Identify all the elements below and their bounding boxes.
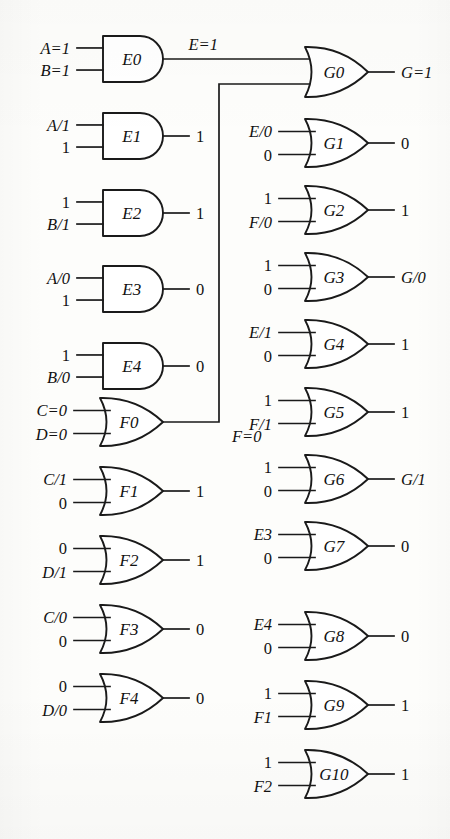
g8-output-label: 0 — [401, 627, 409, 646]
gate-e1[interactable]: E1 — [77, 113, 189, 159]
g3-input-bottom-label: 0 — [264, 280, 272, 299]
e3-input-bottom-label: 1 — [62, 291, 70, 310]
g3-label: G3 — [324, 268, 345, 287]
g7-output-label: 0 — [401, 537, 409, 556]
g8-label: G8 — [324, 627, 345, 646]
g7-input-bottom-label: 0 — [264, 549, 272, 568]
g4-input-top-label: E/1 — [248, 323, 272, 342]
e0-label: E0 — [121, 50, 141, 69]
e0-input-bottom-label: B=1 — [41, 61, 70, 80]
e1-input-top-label: A/1 — [46, 116, 70, 135]
e3-output-label: 0 — [196, 280, 204, 299]
gate-g10[interactable]: G10 — [279, 750, 394, 798]
f1-input-bottom-label: 0 — [59, 494, 67, 513]
g10-input-bottom-label: F2 — [253, 777, 272, 796]
gate-g7[interactable]: G7 — [279, 522, 394, 570]
f1-label: F1 — [119, 482, 139, 501]
f3-output-label: 0 — [196, 620, 204, 639]
f4-input-bottom-label: D/0 — [41, 701, 68, 720]
f4-input-top-label: 0 — [59, 677, 67, 696]
g3-output-label: G/0 — [401, 268, 427, 287]
f2-output-label: 1 — [196, 551, 204, 570]
g5-input-top-label: 1 — [264, 391, 272, 410]
e1-input-bottom-label: 1 — [62, 138, 70, 157]
g8-input-bottom-label: 0 — [264, 639, 272, 658]
f0-label: F0 — [119, 413, 139, 432]
f0-input-bottom-label: D=0 — [35, 425, 68, 444]
f4-label: F4 — [119, 689, 139, 708]
g4-input-bottom-label: 0 — [264, 347, 272, 366]
f1-output-label: 1 — [196, 482, 204, 501]
logic-circuit-svg: E0A=1B=1E=1E1A/111E21B/11E3A/010E41B/00F… — [0, 0, 450, 839]
gate-e2[interactable]: E2 — [77, 190, 189, 236]
g4-output-label: 1 — [401, 335, 409, 354]
gate-g4[interactable]: G4 — [279, 320, 394, 368]
g10-input-top-label: 1 — [264, 753, 272, 772]
g1-label: G1 — [324, 134, 345, 153]
g5-input-bottom-label: F/1 — [248, 415, 272, 434]
gate-e4[interactable]: E4 — [77, 343, 189, 389]
e2-input-top-label: 1 — [62, 193, 70, 212]
gate-g8[interactable]: G8 — [279, 612, 394, 660]
gate-g0[interactable]: G0 — [305, 47, 394, 97]
gates-layer: E0A=1B=1E=1E1A/111E21B/11E3A/010E41B/00F… — [35, 35, 433, 798]
f2-input-bottom-label: D/1 — [41, 563, 67, 582]
g1-output-label: 0 — [401, 134, 409, 153]
e2-input-bottom-label: B/1 — [47, 215, 70, 234]
gate-g3[interactable]: G3 — [279, 253, 394, 301]
gate-g2[interactable]: G2 — [279, 186, 394, 234]
g6-output-label: G/1 — [401, 470, 426, 489]
g2-input-bottom-label: F/0 — [248, 213, 273, 232]
e3-input-top-label: A/0 — [46, 269, 71, 288]
e0-input-top-label: A=1 — [40, 39, 70, 58]
e4-input-bottom-label: B/0 — [47, 368, 71, 387]
g2-input-top-label: 1 — [264, 189, 272, 208]
g6-input-top-label: 1 — [264, 458, 272, 477]
g6-label: G6 — [324, 470, 345, 489]
gate-f3[interactable]: F3 — [74, 605, 189, 653]
e2-label: E2 — [121, 204, 141, 223]
g7-label: G7 — [324, 537, 346, 556]
g1-input-bottom-label: 0 — [264, 146, 272, 165]
f2-input-top-label: 0 — [59, 539, 67, 558]
e2-output-label: 1 — [196, 204, 204, 223]
gate-e3[interactable]: E3 — [77, 266, 189, 312]
gate-g9[interactable]: G9 — [279, 681, 394, 729]
g1-input-top-label: E/0 — [248, 122, 273, 141]
g5-label: G5 — [324, 403, 345, 422]
g5-output-label: 1 — [401, 403, 409, 422]
e4-label: E4 — [121, 357, 141, 376]
g4-label: G4 — [324, 335, 345, 354]
e4-input-top-label: 1 — [62, 346, 70, 365]
f1-input-top-label: C/1 — [43, 470, 67, 489]
g2-label: G2 — [324, 201, 345, 220]
g9-output-label: 1 — [401, 696, 409, 715]
g2-output-label: 1 — [401, 201, 409, 220]
f4-output-label: 0 — [196, 689, 204, 708]
g0-output-label: G=1 — [401, 63, 432, 82]
gate-g5[interactable]: G5 — [279, 388, 394, 436]
g0-label: G0 — [324, 63, 345, 82]
g10-output-label: 1 — [401, 765, 409, 784]
f3-input-top-label: C/0 — [43, 608, 68, 627]
g7-input-top-label: E3 — [253, 525, 272, 544]
gate-f1[interactable]: F1 — [74, 467, 189, 515]
e1-label: E1 — [121, 127, 141, 146]
g8-input-top-label: E4 — [253, 615, 272, 634]
e1-output-label: 1 — [196, 127, 204, 146]
f3-label: F3 — [119, 620, 139, 639]
f2-label: F2 — [119, 551, 139, 570]
f0-input-top-label: C=0 — [37, 401, 68, 420]
e3-label: E3 — [121, 280, 141, 299]
gate-g6[interactable]: G6 — [279, 455, 394, 503]
g3-input-top-label: 1 — [264, 256, 272, 275]
g9-label: G9 — [324, 696, 345, 715]
circuit-diagram-page: E0A=1B=1E=1E1A/111E21B/11E3A/010E41B/00F… — [0, 0, 450, 839]
gate-f2[interactable]: F2 — [74, 536, 189, 584]
f0-output-trunk-wire — [163, 84, 309, 422]
gate-f4[interactable]: F4 — [74, 674, 189, 722]
gate-g1[interactable]: G1 — [279, 119, 394, 167]
g10-label: G10 — [319, 765, 349, 784]
g9-input-bottom-label: F1 — [253, 708, 272, 727]
g9-input-top-label: 1 — [264, 684, 272, 703]
